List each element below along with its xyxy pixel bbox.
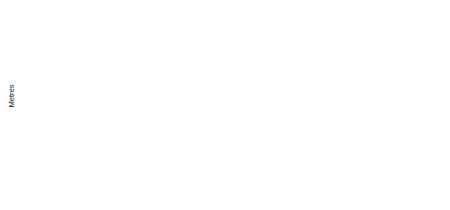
- chart-figure: Metres: [0, 0, 450, 210]
- vegetation-altitude-line-chart: Metres: [0, 0, 450, 210]
- y-axis-title: Metres: [7, 84, 16, 107]
